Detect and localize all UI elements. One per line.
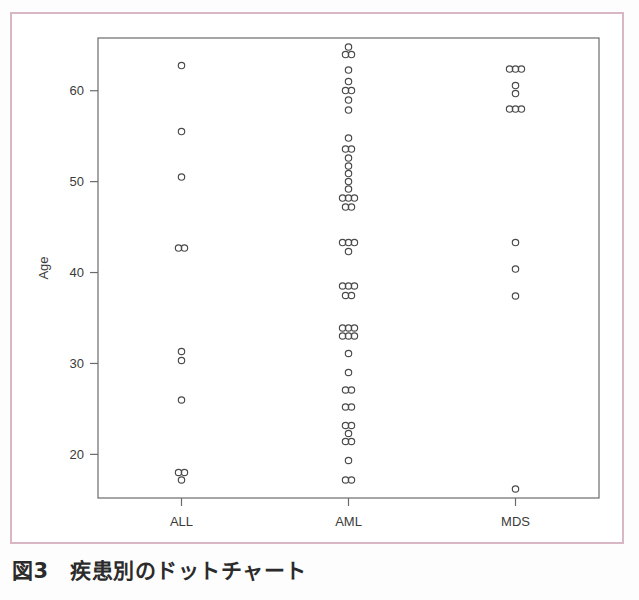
y-axis-tick-label: 40 xyxy=(70,265,84,280)
data-point xyxy=(345,107,351,113)
data-point xyxy=(512,82,518,88)
data-point xyxy=(345,430,351,436)
data-point xyxy=(345,163,351,169)
data-points xyxy=(175,44,524,492)
data-point xyxy=(345,170,351,176)
y-axis-tick-label: 60 xyxy=(70,83,84,98)
data-point xyxy=(178,62,184,68)
y-axis: 2030405060 xyxy=(70,83,98,462)
dot-chart-plot: 2030405060 ALLAMLMDS Age Disease xyxy=(12,14,626,546)
x-axis-tick-label: AML xyxy=(335,514,362,529)
x-axis-tick-label: MDS xyxy=(501,514,530,529)
data-point xyxy=(178,477,184,483)
y-axis-title: Age xyxy=(36,256,51,279)
data-point xyxy=(345,44,351,50)
data-point xyxy=(178,174,184,180)
data-point xyxy=(345,67,351,73)
data-point xyxy=(178,348,184,354)
data-point xyxy=(345,457,351,463)
data-point xyxy=(512,266,518,272)
x-axis: ALLAMLMDS xyxy=(170,498,530,529)
data-point xyxy=(345,248,351,254)
x-axis-tick-label: ALL xyxy=(170,514,193,529)
data-point xyxy=(178,128,184,134)
data-point xyxy=(345,135,351,141)
data-point xyxy=(512,90,518,96)
figure-page: 2030405060 ALLAMLMDS Age Disease 図3 疾患別の… xyxy=(0,0,639,600)
data-point xyxy=(178,357,184,363)
y-axis-tick-label: 50 xyxy=(70,174,84,189)
data-point xyxy=(512,293,518,299)
data-point xyxy=(345,178,351,184)
data-point xyxy=(345,97,351,103)
y-axis-tick-label: 20 xyxy=(70,447,84,462)
data-point xyxy=(512,486,518,492)
figure-caption: 図3 疾患別のドットチャート xyxy=(12,556,632,600)
data-point xyxy=(345,369,351,375)
data-point xyxy=(345,155,351,161)
data-point xyxy=(512,239,518,245)
figure-frame: 2030405060 ALLAMLMDS Age Disease xyxy=(10,12,624,544)
data-point xyxy=(345,78,351,84)
data-point xyxy=(345,186,351,192)
data-point xyxy=(178,397,184,403)
data-point xyxy=(345,350,351,356)
y-axis-tick-label: 30 xyxy=(70,356,84,371)
